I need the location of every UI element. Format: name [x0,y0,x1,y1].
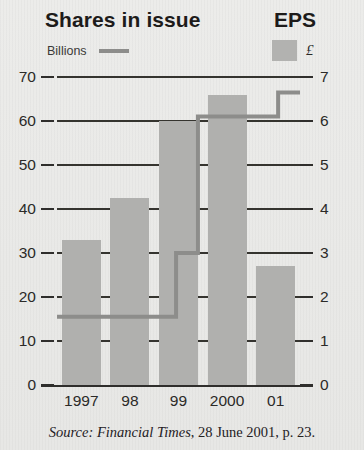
y2-axis-tick [300,208,313,210]
caption-rest: , 28 June 2001, p. 23. [191,424,315,440]
y-axis-tick [41,164,54,166]
y2-axis-tick-label: 0 [320,377,344,393]
y2-axis-tick [300,164,313,166]
x-tick-label-99: 99 [154,392,203,410]
y2-axis-tick [300,76,313,78]
bar-2000 [208,95,247,385]
y2-axis-tick-label: 6 [320,113,344,129]
y-axis-tick [41,208,54,210]
chart-figure: Shares in issue EPS Billions £ 010203040… [0,0,364,450]
y-axis-tick [41,120,54,122]
title-row: Shares in issue EPS [0,4,364,38]
legend-eps-label: £ [306,42,314,59]
y-axis-tick-label: 50 [0,157,36,173]
y2-axis-tick [300,120,313,122]
y-axis-tick-label: 0 [0,377,36,393]
legend-billions: Billions [47,44,129,58]
y2-axis-tick-label: 5 [320,157,344,173]
page-title: Shares in issue [45,8,201,32]
y-axis-tick [41,252,54,254]
y-axis-tick-label: 60 [0,113,36,129]
bar-99 [159,121,198,385]
legend-billions-label: Billions [47,44,87,58]
bar-98 [110,198,149,385]
legend-bar-swatch-icon [272,40,297,61]
secondary-axis-title: EPS [274,8,316,32]
y-axis-tick-label: 20 [0,289,36,305]
y-axis-tick-label: 40 [0,201,36,217]
y-axis-tick-label: 70 [0,69,36,85]
x-axis-baseline [41,385,313,387]
bar-01 [256,266,295,385]
legend-eps: £ [272,40,314,61]
x-tick-label-1997: 1997 [57,392,106,410]
y2-axis-tick [300,252,313,254]
y2-axis-tick-label: 7 [320,69,344,85]
y-axis-tick [41,76,54,78]
x-tick-label-98: 98 [106,392,155,410]
x-tick-label-2000: 2000 [203,392,252,410]
y-axis-tick-label: 30 [0,245,36,261]
y2-axis-tick-label: 4 [320,201,344,217]
source-caption: Source: Financial Times, 28 June 2001, p… [0,424,364,441]
y2-axis-tick-label: 1 [320,333,344,349]
plot-area [57,77,300,385]
caption-publication: Financial Times [97,424,191,440]
legend-line-swatch-icon [99,49,129,53]
bar-1997 [62,240,101,385]
y2-axis-tick-label: 3 [320,245,344,261]
y2-axis-tick [300,296,313,298]
caption-source-word: Source: [49,424,94,440]
y-axis-tick [41,340,54,342]
y2-axis-tick-label: 2 [320,289,344,305]
y-axis-tick-label: 10 [0,333,36,349]
y2-axis-tick [300,340,313,342]
x-tick-label-01: 01 [251,392,300,410]
y-axis-tick [41,296,54,298]
